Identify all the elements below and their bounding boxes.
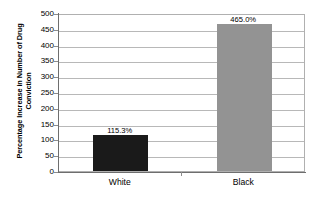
plot-area	[58, 14, 305, 172]
y-axis-tick-mark	[54, 77, 58, 78]
y-axis-title-line-1: Percentage Increase in Number of Drug	[15, 23, 24, 158]
y-axis-tick-mark	[54, 156, 58, 157]
y-axis-tick-label: 400	[24, 42, 54, 50]
y-axis-tick-label: 450	[24, 26, 54, 34]
y-axis-tick-mark	[54, 46, 58, 47]
x-axis-line	[58, 172, 306, 173]
y-axis-tick-mark	[54, 30, 58, 31]
y-axis-tick-label: 250	[24, 89, 54, 97]
bar-black[interactable]	[217, 24, 272, 171]
y-axis-tick-label: 350	[24, 57, 54, 65]
y-axis-tick-label: 200	[24, 105, 54, 113]
y-axis-tick-label: 150	[24, 121, 54, 129]
y-axis-tick-mark	[54, 109, 58, 110]
y-axis-tick-label: 100	[24, 136, 54, 144]
y-axis-tick-mark	[54, 14, 58, 15]
bar-chart: Percentage Increase in Number of Drug Co…	[0, 0, 315, 204]
x-axis-category-label: Black	[198, 177, 288, 187]
bar-value-label: 465.0%	[213, 16, 273, 24]
bar-value-label: 115.3%	[90, 127, 150, 135]
y-axis-tick-label: 500	[24, 10, 54, 18]
y-axis-tick-mark	[54, 125, 58, 126]
y-axis-tick-mark	[54, 140, 58, 141]
y-axis-tick-mark	[54, 172, 58, 173]
bar-white[interactable]	[93, 135, 148, 171]
y-axis-line	[58, 13, 59, 173]
x-axis-category-label: White	[75, 177, 165, 187]
y-axis-tick-mark	[54, 93, 58, 94]
y-axis-tick-label: 50	[24, 152, 54, 160]
y-axis-tick-labels: 500450400350300250200150100500	[24, 14, 54, 172]
x-axis-category-tick	[181, 172, 182, 176]
y-axis-tick-mark	[54, 61, 58, 62]
y-axis-tick-label: 0	[24, 168, 54, 176]
y-axis-tick-label: 300	[24, 73, 54, 81]
